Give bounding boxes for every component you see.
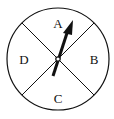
section-label-b: B [90,52,99,67]
spinner-diagram: A B C D [0,0,114,119]
pivot-icon [56,57,60,61]
section-label-d: D [19,52,28,67]
section-label-c: C [54,91,63,106]
section-label-a: A [53,16,63,31]
